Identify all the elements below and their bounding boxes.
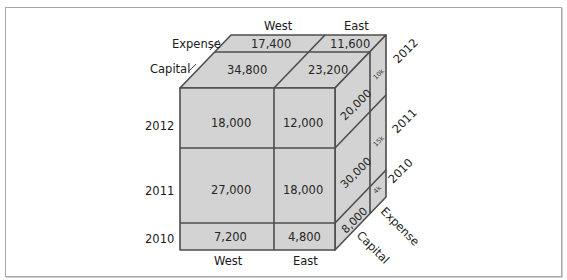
- front-2011-east-value: 18,000: [283, 183, 323, 197]
- right-label-2010: 2010: [385, 156, 416, 187]
- top-capital-east-value: 23,200: [308, 63, 348, 77]
- top-capital-west-value: 34,800: [227, 63, 267, 77]
- bottom-label-west: West: [214, 254, 243, 268]
- top-expense-west-value: 17,400: [251, 37, 291, 51]
- left-label-2012: 2012: [145, 119, 174, 133]
- bottom-label-east: East: [293, 254, 318, 268]
- olap-cube: West East Expense Capital 17,400 11,600 …: [0, 0, 567, 280]
- cube-front-face: [180, 88, 335, 250]
- right-label-capital: Capital: [354, 228, 392, 266]
- front-2011-west-value: 27,000: [211, 183, 251, 197]
- top-expense-east-value: 11,600: [330, 37, 370, 51]
- top-label-east: East: [344, 19, 369, 33]
- front-2010-east-value: 4,800: [288, 230, 321, 244]
- right-label-2011: 2011: [389, 106, 420, 137]
- right-label-expense: Expense: [378, 204, 422, 248]
- top-label-west: West: [264, 19, 293, 33]
- top-label-expense: Expense: [172, 37, 221, 51]
- left-label-2011: 2011: [145, 184, 174, 198]
- front-2010-west-value: 7,200: [214, 230, 247, 244]
- left-label-2010: 2010: [145, 232, 174, 246]
- right-label-2012: 2012: [390, 36, 421, 67]
- front-2012-west-value: 18,000: [211, 116, 251, 130]
- front-2012-east-value: 12,000: [283, 116, 323, 130]
- top-label-capital: Capital: [150, 62, 190, 76]
